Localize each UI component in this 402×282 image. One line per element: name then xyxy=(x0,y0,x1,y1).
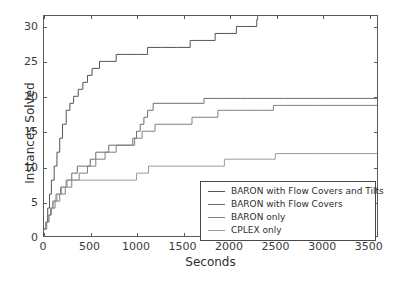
y-tick-mark xyxy=(43,97,47,98)
y-tick-label: 10 xyxy=(24,160,38,173)
x-tick-mark xyxy=(137,233,138,237)
x-tick-label: 0 xyxy=(40,240,47,253)
x-tick-mark-top xyxy=(323,15,324,19)
x-tick-label: 1000 xyxy=(122,240,150,253)
x-tick-label: 1500 xyxy=(169,240,197,253)
y-tick-mark-right xyxy=(374,168,378,169)
y-tick-mark xyxy=(43,62,47,63)
legend-item[interactable]: BARON with Flow Covers xyxy=(205,198,371,211)
chart-legend: BARON with Flow Covers and TiltsBARON wi… xyxy=(200,181,376,241)
x-tick-label: 2500 xyxy=(262,240,290,253)
x-tick-mark xyxy=(44,233,45,237)
y-tick-label: 0 xyxy=(31,231,38,244)
x-tick-label: 2000 xyxy=(215,240,243,253)
x-tick-mark-top xyxy=(44,15,45,19)
y-tick-mark xyxy=(43,27,47,28)
y-tick-mark-right xyxy=(374,27,378,28)
x-tick-mark xyxy=(91,233,92,237)
y-tick-mark-right xyxy=(374,97,378,98)
y-tick-label: 20 xyxy=(24,90,38,103)
y-tick-mark xyxy=(43,203,47,204)
legend-line-swatch xyxy=(208,217,225,218)
y-tick-label: 5 xyxy=(31,195,38,208)
y-tick-label: 25 xyxy=(24,54,38,67)
y-tick-label: 15 xyxy=(24,125,38,138)
chart-figure: Instances Solved 051015202530 0500100015… xyxy=(0,0,402,282)
legend-line-swatch xyxy=(208,230,225,231)
x-axis-title: Seconds xyxy=(43,255,378,269)
x-tick-mark-top xyxy=(370,15,371,19)
legend-line-swatch xyxy=(208,204,225,205)
legend-item-label: CPLEX only xyxy=(231,224,281,237)
x-tick-mark-top xyxy=(91,15,92,19)
x-tick-label: 500 xyxy=(79,240,100,253)
x-tick-mark-top xyxy=(277,15,278,19)
x-tick-mark-top xyxy=(137,15,138,19)
legend-item-label: BARON with Flow Covers and Tilts xyxy=(231,185,384,198)
x-tick-mark xyxy=(184,233,185,237)
legend-item[interactable]: BARON with Flow Covers and Tilts xyxy=(205,185,371,198)
y-tick-mark xyxy=(43,132,47,133)
legend-item-label: BARON only xyxy=(231,211,285,224)
y-tick-mark xyxy=(43,168,47,169)
y-tick-mark-right xyxy=(374,132,378,133)
x-tick-mark-top xyxy=(230,15,231,19)
y-tick-mark-right xyxy=(374,62,378,63)
legend-item[interactable]: BARON only xyxy=(205,211,371,224)
legend-item[interactable]: CPLEX only xyxy=(205,224,371,237)
x-tick-mark-top xyxy=(184,15,185,19)
y-tick-label: 30 xyxy=(24,19,38,32)
legend-item-label: BARON with Flow Covers xyxy=(231,198,343,211)
legend-line-swatch xyxy=(208,191,225,192)
x-tick-label: 3500 xyxy=(355,240,383,253)
x-tick-label: 3000 xyxy=(308,240,336,253)
